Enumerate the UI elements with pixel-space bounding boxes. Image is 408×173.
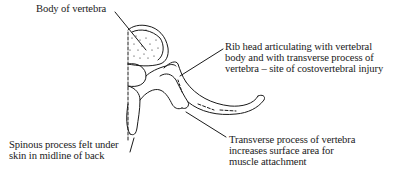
label-transverse-process: Transverse process of vertebra increases… xyxy=(229,134,355,167)
label-line: increases surface area for xyxy=(229,145,355,156)
label-line: muscle attachment xyxy=(229,156,355,167)
label-line: Body of vertebra xyxy=(36,3,106,14)
label-rib-head: Rib head articulating with vertebral bod… xyxy=(225,41,383,74)
label-line: body and with transverse process of xyxy=(225,52,383,63)
leader-body xyxy=(115,12,146,50)
label-spinous-process: Spinous process felt under skin in midli… xyxy=(9,139,119,161)
label-body-of-vertebra: Body of vertebra xyxy=(36,3,106,14)
label-line: vertebra – site of costovertebral injury xyxy=(225,63,383,74)
leader-rib-head xyxy=(180,49,223,76)
spinal-canal xyxy=(128,64,146,87)
leader-transverse xyxy=(186,112,226,137)
label-line: Transverse process of vertebra xyxy=(229,134,355,145)
label-line: skin in midline of back xyxy=(9,150,119,161)
leader-spinous xyxy=(130,138,134,152)
rib-shaft xyxy=(186,82,258,106)
label-line: Spinous process felt under xyxy=(9,139,119,150)
label-line: Rib head articulating with vertebral xyxy=(225,41,383,52)
